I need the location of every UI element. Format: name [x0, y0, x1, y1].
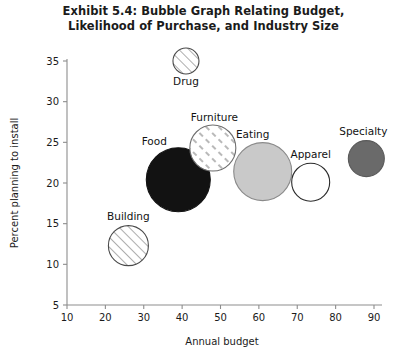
- bubble-drug: [173, 48, 199, 74]
- y-tick-label: 5: [53, 300, 59, 311]
- x-tick-label: 20: [99, 312, 112, 323]
- y-tick-label: 15: [46, 218, 59, 229]
- bubble-label-furniture: Furniture: [191, 111, 238, 123]
- bubble-building: [108, 226, 148, 266]
- y-tick-label: 25: [46, 137, 59, 148]
- bubble-eating: [234, 143, 292, 201]
- axes-layer: 5101520253035102030405060708090: [46, 56, 382, 324]
- y-tick-label: 30: [46, 96, 59, 107]
- bubble-furniture: [190, 125, 236, 171]
- bubble-label-eating: Eating: [236, 128, 269, 140]
- x-axis-title: Annual budget: [185, 336, 258, 347]
- x-tick-label: 10: [61, 312, 74, 323]
- x-tick-label: 80: [329, 312, 342, 323]
- bubble-label-building: Building: [107, 210, 150, 222]
- bubble-label-specialty: Specialty: [339, 125, 387, 137]
- plot-area: 5101520253035102030405060708090 DrugFurn…: [0, 0, 407, 356]
- x-tick-label: 40: [176, 312, 189, 323]
- bubble-label-food: Food: [142, 135, 167, 147]
- x-tick-label: 50: [214, 312, 227, 323]
- bubble-apparel: [292, 163, 330, 201]
- y-tick-label: 10: [46, 259, 59, 270]
- bubble-label-drug: Drug: [173, 75, 199, 87]
- bubbles-layer: [108, 48, 384, 266]
- y-tick-label: 35: [46, 56, 59, 67]
- y-tick-label: 20: [46, 178, 59, 189]
- x-tick-label: 70: [291, 312, 304, 323]
- bubble-label-apparel: Apparel: [290, 148, 330, 160]
- y-axis-title: Percent planning to install: [9, 118, 20, 249]
- x-tick-label: 90: [368, 312, 381, 323]
- x-tick-label: 30: [137, 312, 150, 323]
- bubble-chart-figure: Exhibit 5.4: Bubble Graph Relating Budge…: [0, 0, 407, 356]
- bubble-specialty: [348, 141, 384, 177]
- x-tick-label: 60: [253, 312, 266, 323]
